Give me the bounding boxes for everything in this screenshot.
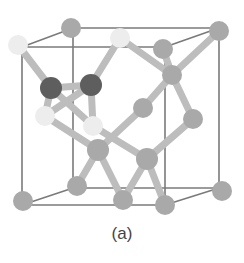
crystal-structure-diagram (0, 0, 244, 220)
atom-gray (209, 21, 229, 41)
atom-gray (61, 18, 81, 38)
atom-gray (133, 98, 153, 118)
atom-gray (212, 181, 232, 201)
atom-gray (183, 109, 203, 129)
atom-gray (162, 65, 182, 85)
atom-gray (87, 139, 109, 161)
atom-gray (153, 39, 173, 59)
atom-gray (113, 190, 133, 210)
atom-white (83, 116, 103, 136)
atom-gray (155, 195, 175, 215)
atom-white (8, 35, 28, 55)
atom-gray (67, 176, 87, 196)
atom-white (110, 28, 130, 48)
atom-dark (40, 77, 62, 99)
atom-dark (80, 74, 102, 96)
figure-caption: (a) (0, 224, 244, 244)
atom-gray (13, 191, 33, 211)
atom-gray (136, 148, 158, 170)
atom-white (35, 106, 55, 126)
